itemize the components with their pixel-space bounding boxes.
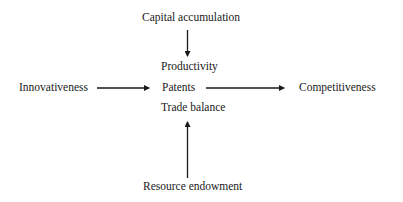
node-competitiveness: Competitiveness [299,80,376,94]
node-innovativeness: Innovativeness [19,80,88,94]
diagram-canvas: Capital accumulation Productivity Innova… [0,0,403,202]
node-resource-endowment: Resource endowment [143,179,242,193]
node-capital-accumulation: Capital accumulation [142,10,240,24]
node-trade-balance: Trade balance [161,100,225,114]
node-patents: Patents [162,80,195,94]
node-productivity: Productivity [161,59,218,73]
